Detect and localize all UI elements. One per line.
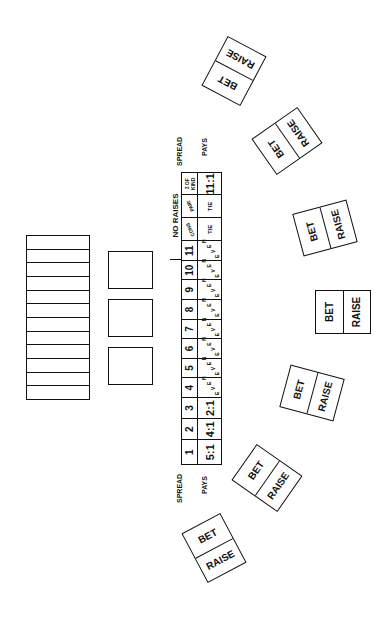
even-label: EVEN	[198, 261, 221, 280]
spread-col-pair: PAIRTIE	[182, 195, 221, 218]
spread-label-bottom: SPREAD	[176, 474, 183, 503]
bet-spot-5[interactable]: BET RAISE	[292, 200, 357, 257]
spread-col-1: 15:1	[182, 439, 221, 464]
pays-label-bottom: PAYS	[201, 476, 208, 494]
spread-col-10: 10EVEN	[182, 260, 221, 280]
bet-spot-7[interactable]: BET RAISE	[201, 36, 266, 106]
even-label: EVEN	[198, 378, 221, 397]
spread-col-8: 8EVEN	[182, 299, 221, 319]
spread-col-2: 24:1	[182, 418, 221, 439]
even-label: EVEN	[198, 281, 221, 300]
rack-slot	[27, 359, 89, 373]
spread-col-7: 7EVEN	[182, 319, 221, 339]
even-label: EVEN	[198, 339, 221, 358]
even-label: EVEN	[198, 300, 221, 319]
rack-slot	[27, 236, 89, 250]
spread-col-9: 9EVEN	[182, 280, 221, 300]
bet-spot-1[interactable]: BET RAISE	[181, 513, 246, 583]
rack-slot	[27, 373, 89, 387]
spread-col-three-of-kind: 3 OF KIND11:1	[182, 173, 221, 194]
card-box-3[interactable]	[108, 347, 153, 385]
no-raises-header: NO RAISES	[170, 172, 181, 260]
spread-col-6: 6EVEN	[182, 338, 221, 358]
rack-slot	[27, 318, 89, 332]
rack-slot	[27, 277, 89, 291]
even-label: EVEN	[198, 359, 221, 378]
card-box-1[interactable]	[108, 251, 153, 289]
bet-area[interactable]: BET	[316, 291, 344, 333]
bet-spot-4[interactable]: BET RAISE	[315, 290, 371, 334]
card-box-2[interactable]	[108, 299, 153, 337]
even-label: EVEN	[198, 320, 221, 339]
rack-slot	[27, 250, 89, 264]
card-rack	[26, 235, 90, 400]
spread-label-top: SPREAD	[176, 137, 183, 166]
bet-spot-3[interactable]: BET RAISE	[279, 365, 344, 422]
spread-col-4: 4EVEN	[182, 377, 221, 397]
rack-slot	[27, 386, 89, 399]
even-label: EVEN	[198, 241, 221, 260]
pays-label-top: PAYS	[201, 138, 208, 156]
bet-spot-2[interactable]: BET RAISE	[231, 444, 302, 512]
rack-slot	[27, 345, 89, 359]
spread-col-cons: CONSTIE	[182, 217, 221, 240]
spread-col-3: 32:1	[182, 397, 221, 418]
payout-table: NO RAISES 15:1 24:1 32:1 4EVEN 5EVEN 6EV…	[170, 172, 222, 465]
spread-col-11: 11EVEN	[182, 240, 221, 260]
rack-slot	[27, 263, 89, 277]
rack-slot	[27, 332, 89, 346]
raise-area[interactable]: RAISE	[344, 291, 371, 333]
bet-spot-6[interactable]: BET RAISE	[251, 107, 322, 175]
rack-slot	[27, 304, 89, 318]
spread-col-5: 5EVEN	[182, 358, 221, 378]
rack-slot	[27, 291, 89, 305]
